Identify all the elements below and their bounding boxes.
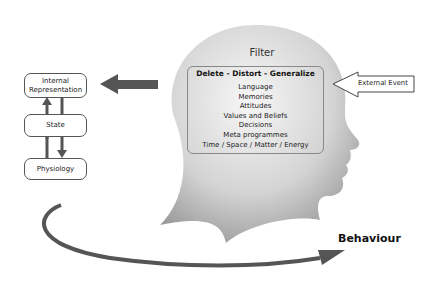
filter-item: Meta programmes (187, 131, 324, 141)
filter-item: Values and Beliefs (187, 112, 324, 122)
external-event-label: External Event (358, 79, 408, 87)
filter-title: Filter (232, 47, 292, 58)
arrow-up-icon (42, 97, 52, 105)
filter-item: Attitudes (187, 102, 324, 112)
node-internal-representation: InternalRepresentation (24, 73, 87, 98)
behaviour-arrowhead-icon (318, 250, 345, 265)
behaviour-label: Behaviour (338, 232, 401, 245)
filter-item: Decisions (187, 121, 324, 131)
filter-item: Language (187, 83, 324, 93)
filter-list: Language Memories Attitudes Values and B… (187, 83, 324, 150)
filter-heading: Delete - Distort - Generalize (187, 69, 324, 78)
arrow-left-icon (100, 74, 158, 94)
filter-item: Memories (187, 93, 324, 103)
node-state: State (24, 114, 87, 137)
arrow-down-icon (57, 150, 67, 158)
filter-item: Time / Space / Matter / Energy (187, 141, 324, 151)
node-physiology: Physiology (24, 158, 87, 180)
